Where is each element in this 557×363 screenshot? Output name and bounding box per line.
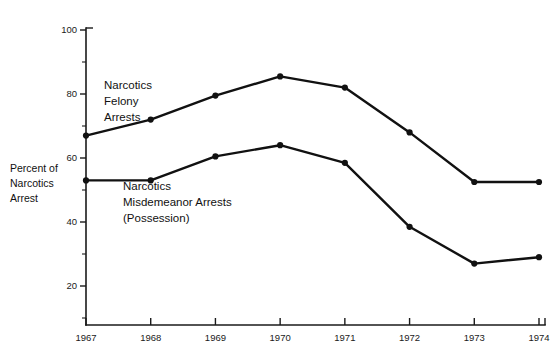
series-label-line: Arrests: [104, 111, 141, 123]
x-tick-label: 1970: [270, 332, 291, 343]
series-label-line: Felony: [104, 95, 139, 107]
data-point: [83, 177, 89, 183]
narcotics-arrest-line-chart: 10080604020 1967196819691970197119721973…: [0, 0, 557, 363]
data-point: [536, 179, 542, 185]
data-point: [342, 85, 348, 91]
y-tick-label: 100: [61, 24, 77, 35]
data-point: [212, 93, 218, 99]
data-point: [83, 133, 89, 139]
x-tick-label: 1967: [75, 332, 96, 343]
series-label-line: Misdemeanor Arrests: [123, 196, 232, 208]
data-point: [536, 254, 542, 260]
y-tick-label: 60: [66, 152, 77, 163]
x-tick-label: 1969: [205, 332, 226, 343]
y-tick-label: 80: [66, 88, 77, 99]
chart-canvas: 10080604020 1967196819691970197119721973…: [0, 0, 557, 363]
y-axis-title-line: Narcotics: [10, 177, 54, 189]
series-label-line: Narcotics: [123, 180, 171, 192]
x-tick-label: 1973: [464, 332, 485, 343]
series-label-line: (Possession): [123, 212, 190, 224]
x-tick-label: 1971: [334, 332, 355, 343]
data-point: [277, 73, 283, 79]
data-point: [212, 153, 218, 159]
data-point: [342, 160, 348, 166]
data-point: [148, 117, 154, 123]
y-axis-title-line: Arrest: [10, 192, 38, 204]
x-tick-label: 1968: [140, 332, 161, 343]
y-tick-label: 40: [66, 216, 77, 227]
data-point: [406, 224, 412, 230]
data-point: [406, 129, 412, 135]
series-label-line: Narcotics: [104, 79, 152, 91]
x-tick-label: 1972: [399, 332, 420, 343]
data-point: [471, 261, 477, 267]
data-point: [277, 142, 283, 148]
y-tick-label: 20: [66, 280, 77, 291]
x-tick-label: 1974: [528, 332, 549, 343]
y-axis-title-line: Percent of: [10, 162, 58, 174]
data-point: [471, 179, 477, 185]
